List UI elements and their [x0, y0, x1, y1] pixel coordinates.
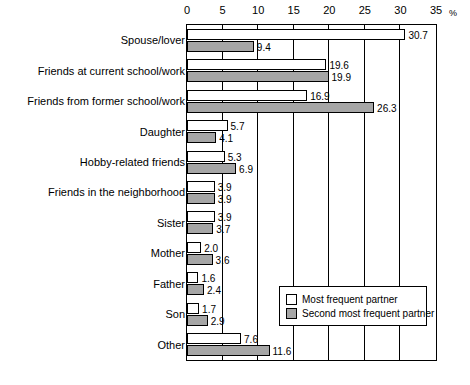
chart-row: Friends at current school/work19.619.9	[0, 55, 470, 85]
bar-value-label: 1.7	[202, 304, 216, 315]
x-axis-tick-label: 15	[282, 4, 306, 16]
category-label: Father	[153, 278, 185, 290]
bar	[187, 41, 254, 52]
bar	[187, 151, 225, 162]
bar	[187, 163, 236, 174]
category-label: Daughter	[140, 126, 185, 138]
bar	[187, 193, 215, 204]
x-axis-tick-label: 35	[424, 4, 448, 16]
category-label: Son	[165, 308, 185, 320]
bar-value-label: 3.9	[218, 212, 232, 223]
bar-value-label: 3.7	[216, 224, 230, 235]
bar	[187, 59, 326, 70]
bar	[187, 303, 199, 314]
bar	[187, 29, 405, 40]
bar	[187, 333, 241, 344]
bar-value-label: 3.9	[218, 182, 232, 193]
bar-value-label: 19.6	[329, 60, 348, 71]
x-axis-tick-label: 10	[246, 4, 270, 16]
chart-row: Spouse/lover30.79.4	[0, 25, 470, 55]
category-label: Other	[157, 339, 185, 351]
legend-swatch-icon	[286, 294, 297, 305]
bar-value-label: 5.3	[228, 152, 242, 163]
bar	[187, 102, 374, 113]
bar	[187, 254, 213, 265]
chart-row: Other7.611.6	[0, 330, 470, 360]
bar	[187, 71, 329, 82]
bar-value-label: 2.0	[204, 243, 218, 254]
bar	[187, 120, 228, 131]
bar	[187, 223, 213, 234]
bar	[187, 315, 208, 326]
bar	[187, 345, 270, 356]
legend-item-label: Second most frequent partner	[302, 308, 434, 319]
chart-row: Sister3.93.7	[0, 208, 470, 238]
chart-row: Mother2.03.6	[0, 238, 470, 268]
x-axis-unit-label: %	[449, 8, 457, 18]
bar	[187, 211, 215, 222]
x-axis-tick-label: 5	[211, 4, 235, 16]
bar-value-label: 2.4	[207, 285, 221, 296]
bar	[187, 181, 215, 192]
bar	[187, 90, 307, 101]
bar-value-label: 9.4	[257, 42, 271, 53]
bar	[187, 242, 201, 253]
bar-value-label: 5.7	[231, 121, 245, 132]
x-axis-tick-label: 30	[388, 4, 412, 16]
bar	[187, 272, 198, 283]
category-label: Sister	[157, 217, 185, 229]
chart-row: Friends from former school/work16.926.3	[0, 86, 470, 116]
bar-value-label: 7.6	[244, 334, 258, 345]
bar-value-label: 1.6	[201, 273, 215, 284]
chart-row: Hobby-related friends5.36.9	[0, 147, 470, 177]
x-axis-tick-label: 0	[175, 4, 199, 16]
x-axis: 05101520253035%	[0, 0, 470, 24]
bar-value-label: 19.9	[332, 72, 351, 83]
chart-row: Friends in the neighborhood3.93.9	[0, 177, 470, 207]
legend-item: Most frequent partner	[286, 292, 420, 306]
category-label: Hobby-related friends	[80, 156, 185, 168]
x-axis-tick-label: 25	[353, 4, 377, 16]
category-label: Spouse/lover	[121, 34, 185, 46]
bar	[187, 284, 204, 295]
chart-row: Daughter5.74.1	[0, 116, 470, 146]
bar-value-label: 6.9	[239, 164, 253, 175]
category-label: Friends at current school/work	[38, 65, 185, 77]
bar	[187, 132, 216, 143]
bar-value-label: 3.6	[216, 255, 230, 266]
legend-swatch-icon	[286, 308, 297, 319]
bar-value-label: 2.9	[211, 316, 225, 327]
bar-value-label: 30.7	[408, 30, 427, 41]
legend-item-label: Most frequent partner	[302, 294, 398, 305]
bar-value-label: 26.3	[377, 103, 396, 114]
category-label: Mother	[151, 247, 185, 259]
legend-item: Second most frequent partner	[286, 306, 420, 320]
chart-legend: Most frequent partner Second most freque…	[279, 286, 427, 326]
category-label: Friends from former school/work	[27, 95, 185, 107]
bar-value-label: 4.1	[219, 133, 233, 144]
bar-value-label: 16.9	[310, 91, 329, 102]
bar-value-label: 11.6	[273, 346, 292, 357]
bar-value-label: 3.9	[218, 194, 232, 205]
category-label: Friends in the neighborhood	[48, 186, 185, 198]
x-axis-tick-label: 20	[317, 4, 341, 16]
bar-chart: 05101520253035% Spouse/lover30.79.4Frien…	[0, 0, 470, 385]
